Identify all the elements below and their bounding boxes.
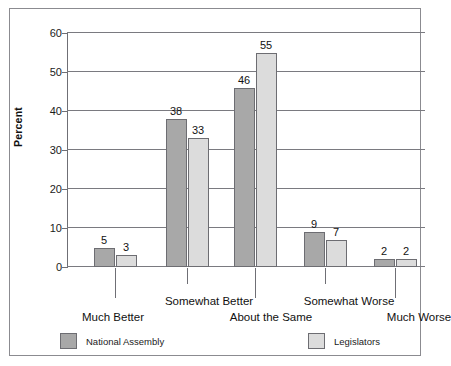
bar-value-label: 46 [238,74,250,86]
bar [166,119,187,267]
x-axis-category-label: Much Worse [387,311,451,323]
bar-value-label: 3 [123,241,129,253]
bar [94,248,115,268]
chart-legend: National AssemblyLegislators [40,327,410,359]
x-tick-mark [325,268,326,284]
chart-frame: Percent 0102030405060 53846923335572 Muc… [9,8,421,356]
y-tick-label: 30 [36,144,62,156]
bar-value-label: 33 [192,124,204,136]
x-axis-category-label: Somewhat Worse [304,295,395,307]
y-tick-label: 10 [36,222,62,234]
bar-value-label: 9 [311,218,317,230]
bar-value-label: 2 [381,245,387,257]
legend-label: National Assembly [86,336,164,347]
y-axis-tick-labels: 0102030405060 [32,33,62,267]
y-tick-label: 20 [36,183,62,195]
y-axis-title: Percent [12,107,24,147]
bar [396,259,417,267]
bar-value-label: 2 [403,245,409,257]
y-tick-label: 0 [36,261,62,273]
plot-area: 53846923335572 [67,33,425,267]
bar-value-label: 38 [170,105,182,117]
gridline-50 [67,71,425,72]
bar [326,240,347,267]
bar [304,232,325,267]
x-tick-mark [255,268,256,298]
legend-swatch [60,333,77,349]
legend-item: National Assembly [60,327,164,355]
x-axis-category-label: Somewhat Better [165,295,253,307]
bar-value-label: 55 [260,39,272,51]
gridline-60 [67,32,425,33]
bar [256,53,277,268]
legend-item: Legislators [308,327,380,355]
y-tick-label: 60 [36,27,62,39]
bar [188,138,209,267]
bar [234,88,255,267]
y-tick-label: 40 [36,105,62,117]
bar-value-label: 5 [101,234,107,246]
legend-label: Legislators [334,336,380,347]
y-tick-label: 50 [36,66,62,78]
bar [116,255,137,267]
x-tick-mark [115,268,116,298]
x-axis-category-label: Much Better [82,311,144,323]
y-tick-mark [62,267,67,268]
x-tick-mark [395,268,396,298]
legend-swatch [308,333,325,349]
bar [374,259,395,267]
x-tick-mark [187,268,188,284]
x-axis-category-label: About the Same [230,311,312,323]
bar-value-label: 7 [333,226,339,238]
